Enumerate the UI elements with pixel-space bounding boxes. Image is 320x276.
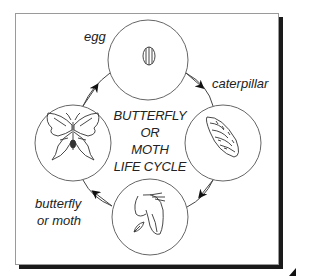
- label-adult-line1: butterfly: [35, 196, 81, 212]
- label-adult-line2: or moth: [37, 213, 81, 229]
- stage-pupa: [112, 179, 188, 255]
- arrow-adult-to-egg: [83, 73, 110, 106]
- label-caterpillar: caterpillar: [212, 76, 268, 92]
- stage-egg: [108, 20, 188, 100]
- title-line-3: LIFE CYCLE: [104, 158, 196, 175]
- stage-adult: [35, 105, 111, 181]
- arrow-caterpillar-to-pupa: [187, 180, 213, 207]
- arrow-egg-to-caterpillar: [186, 73, 213, 106]
- diagram-title: BUTTERFLY OR MOTH LIFE CYCLE: [104, 107, 196, 175]
- title-line-2: MOTH: [104, 141, 196, 158]
- title-line-1: BUTTERFLY OR: [104, 107, 196, 141]
- label-egg: egg: [84, 29, 106, 45]
- stage-caterpillar: [185, 105, 261, 181]
